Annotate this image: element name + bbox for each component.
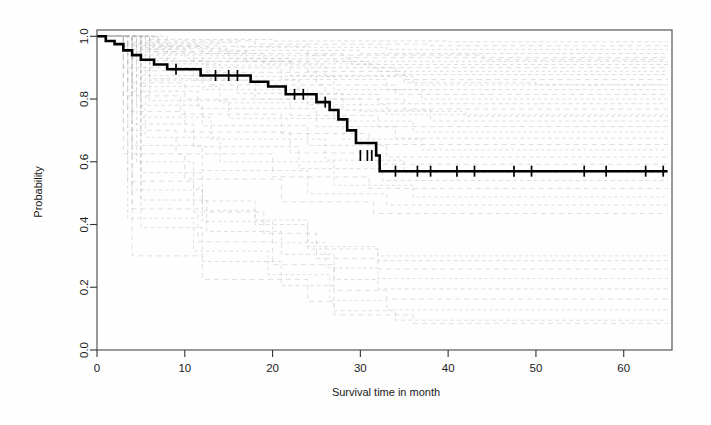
kaplan-meier-chart: 01020304050600.00.20.40.60.81.0 Survival… [0, 0, 711, 425]
x-tick-label: 40 [442, 362, 455, 374]
survival-plot-figure: 01020304050600.00.20.40.60.81.0 Survival… [0, 0, 711, 425]
y-tick-label: 1.0 [78, 28, 90, 44]
x-tick-label: 20 [266, 362, 279, 374]
replicate-curves-group [97, 36, 668, 323]
y-tick-label: 0.4 [78, 216, 90, 233]
y-tick-label: 0.0 [78, 342, 90, 358]
replicate-curve [97, 36, 668, 213]
x-tick-label: 10 [178, 362, 191, 374]
replicate-curve [97, 36, 668, 94]
replicate-curve [97, 36, 668, 60]
replicate-curve [97, 36, 668, 157]
y-tick-label: 0.8 [78, 91, 90, 107]
axis-ticks-group: 01020304050600.00.20.40.60.81.0 [78, 28, 630, 374]
x-axis-title: Survival time in month [332, 386, 440, 398]
replicate-curve [97, 36, 668, 164]
x-tick-label: 0 [94, 362, 100, 374]
replicate-curve [97, 36, 668, 132]
y-tick-label: 0.6 [78, 154, 90, 170]
replicate-curve [97, 36, 668, 53]
x-tick-label: 50 [530, 362, 543, 374]
x-tick-label: 30 [354, 362, 367, 374]
plot-frame [97, 30, 672, 350]
plot-frame-group [97, 30, 672, 350]
replicate-curve [97, 36, 668, 57]
replicate-curve [97, 36, 668, 126]
y-axis-title: Probability [32, 166, 44, 218]
replicate-curve [97, 36, 668, 188]
y-tick-label: 0.2 [78, 279, 90, 295]
replicate-curve [97, 36, 668, 172]
replicate-curve [97, 36, 668, 64]
replicate-curve [97, 36, 668, 180]
replicate-curve [97, 36, 668, 278]
replicate-curve [97, 36, 668, 144]
replicate-curve [97, 36, 668, 289]
x-tick-label: 60 [617, 362, 630, 374]
replicate-curve [97, 36, 668, 71]
